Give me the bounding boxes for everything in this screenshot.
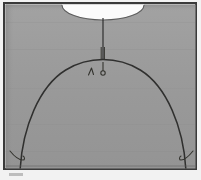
figure-canvas bbox=[0, 0, 201, 180]
panel-left-shadow bbox=[5, 4, 14, 168]
faint-caption-smudge bbox=[9, 173, 23, 176]
figure-container: Grayscale scanned technical figure Gray … bbox=[0, 0, 201, 180]
panel-gray-fill bbox=[6, 5, 196, 169]
